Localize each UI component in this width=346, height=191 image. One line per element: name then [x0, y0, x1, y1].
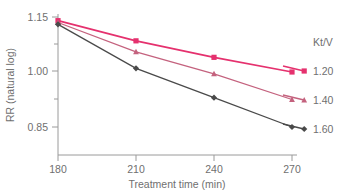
legend-swatch-marker-1.60 [301, 126, 307, 132]
data-point-1.20-210 [133, 38, 138, 43]
series-1.20 [55, 18, 306, 75]
y-tick-label-0: 1.15 [28, 11, 49, 23]
data-point-1.60-210 [133, 65, 139, 71]
legend-entry-2[interactable]: 1.60 [313, 123, 334, 135]
data-point-1.20-270 [289, 69, 294, 74]
x-tick-label-0: 180 [49, 163, 67, 175]
legend-label-0: 1.20 [313, 65, 334, 77]
data-point-1.20-240 [211, 55, 216, 60]
data-point-1.60-240 [211, 95, 217, 101]
series-line-1.40 [58, 23, 292, 100]
series-1.60 [55, 21, 307, 132]
x-tick-label-3: 270 [283, 163, 301, 175]
legend-swatch-marker-1.20 [302, 68, 307, 73]
chart-container: 1.15 1.00 0.85 180 210 240 270 Treatment… [0, 0, 346, 191]
x-axis-title: Treatment time (min) [128, 178, 225, 190]
line-chart: 1.15 1.00 0.85 180 210 240 270 Treatment… [0, 0, 346, 191]
legend-label-2: 1.60 [313, 123, 334, 135]
x-tick-label-1: 210 [127, 163, 145, 175]
y-axis-title: RR (natural log) [4, 48, 16, 122]
series-line-1.60 [58, 24, 292, 127]
y-tick-label-1: 1.00 [28, 65, 49, 77]
legend-entry-1[interactable]: 1.40 [313, 94, 334, 106]
series-1.40 [55, 20, 307, 103]
series-line-1.20 [58, 21, 292, 72]
legend-title: Kt/V [313, 36, 333, 48]
legend-label-1: 1.40 [313, 94, 334, 106]
x-tick-label-2: 240 [205, 163, 223, 175]
series-group [55, 18, 307, 132]
y-tick-label-2: 0.85 [28, 121, 49, 133]
legend-entry-0[interactable]: 1.20 [313, 65, 334, 77]
